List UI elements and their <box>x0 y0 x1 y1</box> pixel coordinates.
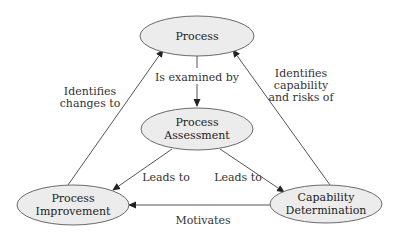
edge-leads-to-improvement: Leads to <box>113 149 190 190</box>
node-label: Process <box>175 30 219 43</box>
edge-label: Leads to <box>142 171 190 184</box>
node-label: Assessment <box>163 129 230 142</box>
node-capability-determination: Capability Determination <box>270 185 382 223</box>
edge-is-examined-by: Is examined by <box>155 56 240 106</box>
node-label: Determination <box>286 204 367 217</box>
edge-label: Leads to <box>214 171 262 184</box>
node-process-improvement: Process Improvement <box>17 185 129 225</box>
node-process: Process <box>140 16 254 56</box>
node-label: Process <box>51 192 95 205</box>
edge-identifies-capability: Identifies capability and risks of <box>233 50 334 185</box>
node-label: Improvement <box>36 205 111 218</box>
process-diagram: Is examined by Identifies changes to Ide… <box>0 0 401 236</box>
edge-label: changes to <box>60 97 121 110</box>
node-label: Capability <box>298 191 356 204</box>
edge-leads-to-capability: Leads to <box>214 149 284 192</box>
edge-label: Motivates <box>175 214 231 227</box>
edge-identifies-changes-to: Identifies changes to <box>60 50 163 185</box>
edge-label: Is examined by <box>155 71 240 84</box>
edge-motivates: Motivates <box>129 205 270 227</box>
node-process-assessment: Process Assessment <box>141 108 253 150</box>
edge-label: and risks of <box>268 91 334 104</box>
node-label: Process <box>175 116 219 129</box>
